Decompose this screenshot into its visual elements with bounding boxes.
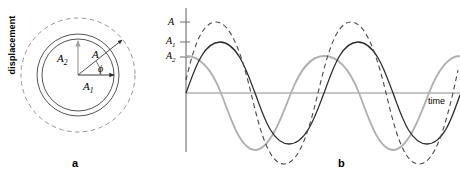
phase-angle-label: ϕ: [98, 63, 103, 74]
amplitude-label-A1: A1: [166, 35, 176, 49]
panel-b-caption: b: [338, 157, 345, 169]
x-axis-title: time: [428, 96, 445, 106]
panel-b-waveform-plot: b: [160, 0, 460, 180]
amplitude-label-A: A: [168, 16, 174, 27]
wave-A2-curve: [186, 56, 460, 150]
waveform-svg: [160, 0, 460, 180]
vector-label-A2: A2: [57, 52, 67, 67]
panel-a-caption: a: [72, 157, 78, 169]
vector-label-A1: A1: [83, 80, 93, 95]
panel-a-phasor-diagram: A2 A A1 ϕ a: [0, 0, 170, 180]
vector-label-A: A: [92, 48, 99, 60]
y-axis-title: displacement: [7, 7, 17, 83]
physics-figure: A2 A A1 ϕ a b displacemen: [0, 0, 460, 180]
amplitude-label-A2: A2: [166, 50, 176, 64]
